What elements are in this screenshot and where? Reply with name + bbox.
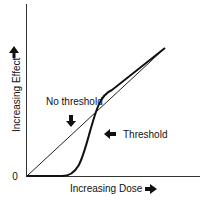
y-axis-label: Increasing Effect (11, 57, 22, 132)
arrow-up-icon (9, 46, 19, 58)
no-threshold-label: No threshold (46, 96, 103, 107)
arrow-left-icon (104, 129, 116, 139)
arrow-down-icon (66, 115, 76, 127)
x-axis-label: Increasing Dose (70, 183, 143, 194)
origin-label: 0 (12, 171, 18, 182)
arrow-right-icon (145, 184, 157, 194)
threshold-label: Threshold (123, 129, 167, 140)
dose-response-diagram: 0 Increasing Effect Increasing Dose No t… (0, 0, 201, 201)
